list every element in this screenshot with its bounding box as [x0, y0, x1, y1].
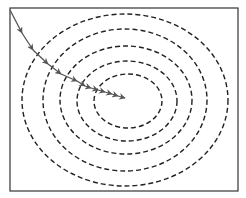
arrow-step-icon — [105, 92, 112, 94]
arrow-step-icon — [85, 86, 91, 88]
contour-ellipse-4 — [43, 29, 207, 171]
plot-frame — [10, 8, 238, 191]
arrow-step-icon — [61, 74, 77, 81]
contour-ellipse-5 — [22, 14, 228, 186]
descent-path — [10, 10, 125, 98]
arrow-step-icon — [10, 10, 22, 33]
arrow-step-icon — [22, 33, 33, 50]
contour-ellipses — [22, 14, 228, 186]
contour-ellipse-3 — [60, 46, 192, 154]
arrow-step-icon — [33, 50, 48, 64]
contour-ellipse-1 — [94, 74, 162, 128]
arrow-step-icon — [112, 94, 118, 96]
gradient-descent-diagram — [0, 0, 246, 198]
arrow-step-icon — [118, 96, 125, 98]
arrow-step-icon — [98, 90, 105, 92]
